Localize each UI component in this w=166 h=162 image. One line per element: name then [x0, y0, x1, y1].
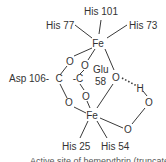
atom-fe-top: Fe — [92, 38, 104, 49]
bond-o-glu-bottom-fe — [87, 101, 90, 108]
label-glu58-line2: 58 — [95, 76, 107, 87]
bond-o-asp-bottom-fe — [74, 107, 86, 113]
label-glu58-line1: Glu — [93, 64, 109, 75]
bond-fe-his25 — [80, 121, 88, 138]
bond-his101-fe — [99, 20, 101, 34]
bond-o-bridge-fe-bottom — [97, 84, 113, 108]
hydrogen-bond — [122, 78, 137, 86]
atom-fe-bottom: Fe — [86, 110, 98, 121]
label-asp106: Asp 106- — [9, 73, 49, 84]
atom-c-asp: C — [55, 73, 62, 84]
atom-c-glu: -C — [73, 73, 84, 84]
label-his101: His 101 — [84, 6, 118, 17]
label-his54: His 54 — [101, 141, 130, 152]
atom-o-glu-bottom: O — [82, 91, 90, 102]
label-his77: His 77 — [46, 20, 75, 31]
diiron-site-diagram: His 101 His 77 His 73 Asp 106- Glu 58 Hi… — [0, 0, 166, 162]
bond-his73-fe — [107, 25, 127, 38]
bond-c-o-glu-bottom — [80, 84, 84, 90]
bond-fe-o-asp-top — [74, 48, 92, 56]
bond-o-peroxo — [132, 108, 145, 124]
atom-o-peroxo-top: O — [145, 97, 153, 108]
bond-his77-fe — [75, 25, 92, 38]
bond-fe-o-peroxo-bottom — [100, 118, 123, 128]
atom-o-bridge: O — [112, 72, 120, 83]
atom-o-peroxo-bottom: O — [124, 124, 132, 135]
atom-h-hydroxo: H — [136, 83, 143, 94]
atom-o-asp-top: O — [66, 56, 74, 67]
figure-caption: Active site of hemerythrin (truncated) — [30, 156, 166, 162]
bond-fe-o-glu-top — [88, 49, 95, 60]
bond-c-o-asp-bottom — [60, 84, 67, 98]
label-his25: His 25 — [62, 141, 91, 152]
label-his73: His 73 — [129, 20, 158, 31]
atom-o-glu-top: O — [81, 60, 89, 71]
bond-fe-his54 — [97, 121, 107, 138]
atom-o-asp-bottom: O — [65, 97, 73, 108]
